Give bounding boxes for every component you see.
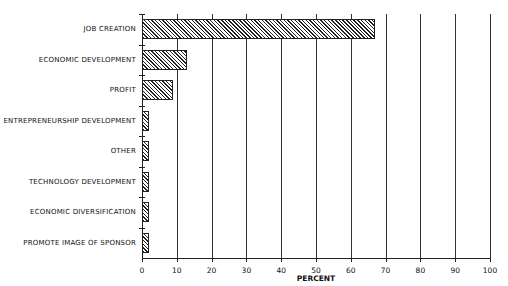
category-label: ECONOMIC DEVELOPMENT bbox=[39, 56, 136, 64]
bar bbox=[142, 80, 173, 100]
y-tick bbox=[139, 14, 145, 15]
bar bbox=[142, 111, 149, 131]
bar bbox=[142, 202, 149, 222]
horizontal-bar-chart: JOB CREATIONECONOMIC DEVELOPMENTPROFITEN… bbox=[0, 0, 508, 286]
x-tick-label: 100 bbox=[483, 266, 497, 275]
gridline bbox=[420, 14, 421, 258]
bar bbox=[142, 50, 187, 70]
y-tick bbox=[139, 75, 145, 76]
category-label: PROFIT bbox=[110, 86, 136, 94]
x-tick-label: 70 bbox=[381, 266, 391, 275]
x-tick bbox=[420, 258, 421, 262]
bar bbox=[142, 19, 375, 39]
x-tick-label: 0 bbox=[140, 266, 145, 275]
x-tick bbox=[281, 258, 282, 262]
x-tick-label: 90 bbox=[450, 266, 460, 275]
y-tick bbox=[139, 197, 145, 198]
category-label: PROMOTE IMAGE OF SPONSOR bbox=[23, 239, 136, 247]
category-label: ECONOMIC DIVERSIFICATION bbox=[30, 208, 136, 216]
bar bbox=[142, 141, 149, 161]
gridline bbox=[316, 14, 317, 258]
x-axis-label: PERCENT bbox=[297, 274, 335, 283]
x-tick bbox=[246, 258, 247, 262]
y-tick bbox=[139, 136, 145, 137]
gridline bbox=[212, 14, 213, 258]
bar bbox=[142, 172, 149, 192]
y-tick bbox=[139, 228, 145, 229]
x-tick-label: 20 bbox=[207, 266, 217, 275]
gridline bbox=[281, 14, 282, 258]
gridline bbox=[351, 14, 352, 258]
category-label: TECHNOLOGY DEVELOPMENT bbox=[29, 178, 136, 186]
gridline bbox=[246, 14, 247, 258]
x-tick-label: 60 bbox=[346, 266, 356, 275]
x-tick bbox=[490, 258, 491, 262]
y-tick bbox=[139, 45, 145, 46]
x-tick bbox=[351, 258, 352, 262]
category-label: OTHER bbox=[111, 147, 136, 155]
gridline bbox=[490, 14, 491, 258]
gridline bbox=[386, 14, 387, 258]
x-tick bbox=[177, 258, 178, 262]
x-tick-label: 40 bbox=[276, 266, 286, 275]
bar bbox=[142, 233, 149, 253]
y-tick bbox=[139, 106, 145, 107]
x-tick bbox=[316, 258, 317, 262]
x-tick bbox=[455, 258, 456, 262]
x-tick-label: 80 bbox=[416, 266, 426, 275]
gridline bbox=[455, 14, 456, 258]
y-tick bbox=[139, 167, 145, 168]
x-tick-label: 10 bbox=[172, 266, 182, 275]
x-tick-label: 30 bbox=[242, 266, 252, 275]
category-label: JOB CREATION bbox=[83, 25, 136, 33]
x-tick bbox=[142, 258, 143, 262]
x-tick bbox=[212, 258, 213, 262]
category-label: ENTREPRENEURSHIP DEVELOPMENT bbox=[3, 117, 136, 125]
x-tick bbox=[386, 258, 387, 262]
